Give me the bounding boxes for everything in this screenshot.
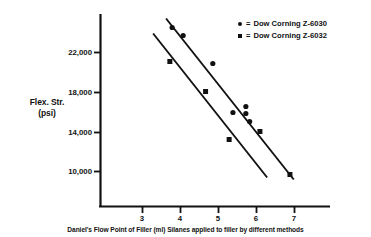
legend-entry-z6030: = Dow Corning Z-6030 [236, 18, 327, 30]
xtick-label-5: 5 [210, 214, 226, 223]
data-point-circle [181, 33, 186, 38]
data-point-circle [243, 111, 248, 116]
data-point-square [227, 137, 232, 142]
data-point-circle [247, 119, 252, 124]
square-marker-icon [238, 34, 242, 38]
data-series-layer [153, 19, 294, 180]
legend-equals-sign-1: = [246, 18, 250, 30]
legend-label-z6030: Dow Corning Z-6030 [253, 18, 326, 30]
x-axis-caption: Daniel's Flow Point of Filler (ml) Silan… [0, 224, 371, 235]
y-axis-title-line1: Flex. Str. [6, 97, 88, 108]
data-point-square [287, 172, 292, 177]
data-point-square [203, 89, 208, 94]
ytick-label-22000: 22,000 [46, 48, 92, 57]
ytick-label-10000: 10,000 [46, 167, 92, 176]
legend-entry-z6032: = Dow Corning Z-6032 [236, 30, 327, 42]
data-point-square [257, 129, 262, 134]
y-axis-title: Flex. Str. (psi) [6, 97, 88, 119]
xtick-label-7: 7 [286, 214, 302, 223]
trend-line [166, 19, 294, 180]
data-point-circle [243, 104, 248, 109]
chart-figure: 22,000 18,000 14,000 10,000 3 4 5 6 7 Fl… [0, 0, 371, 237]
trend-line [153, 34, 267, 178]
data-point-circle [170, 25, 175, 30]
series-z6032 [153, 34, 292, 178]
xtick-label-4: 4 [172, 214, 188, 223]
legend-label-z6032: Dow Corning Z-6032 [253, 30, 326, 42]
circle-marker-icon [238, 22, 242, 26]
data-point-square [167, 59, 172, 64]
xtick-label-3: 3 [134, 214, 150, 223]
series-z6030 [166, 19, 294, 180]
xtick-label-6: 6 [248, 214, 264, 223]
legend-equals-sign-2: = [246, 30, 250, 42]
data-point-circle [230, 110, 235, 115]
ytick-label-18000: 18,000 [46, 88, 92, 97]
chart-legend: = Dow Corning Z-6030 = Dow Corning Z-603… [236, 18, 327, 42]
data-point-circle [210, 61, 215, 66]
y-axis-title-line2: (psi) [6, 108, 88, 119]
ytick-label-14000: 14,000 [46, 128, 92, 137]
